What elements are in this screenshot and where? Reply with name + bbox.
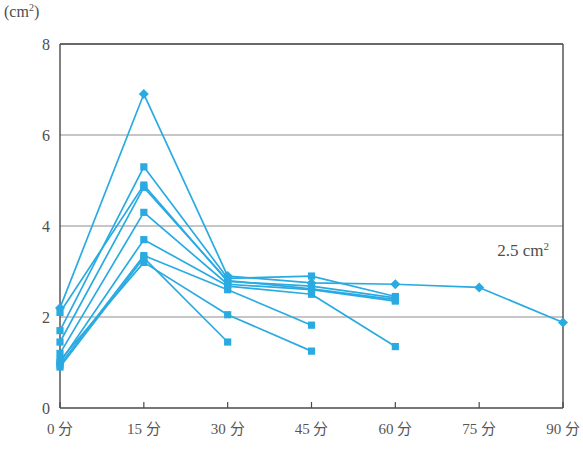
data-point-square [308, 322, 315, 329]
data-point-diamond [558, 317, 568, 327]
x-tick-marks-group [60, 402, 563, 408]
y-tick-label: 2 [42, 309, 50, 326]
data-point-square [140, 209, 147, 216]
value-annotation: 2.5 cm2 [497, 240, 549, 260]
data-point-square [308, 348, 315, 355]
data-point-square [392, 343, 399, 350]
series-line [60, 187, 395, 342]
x-tick-label: 90 分 [546, 421, 580, 437]
x-tick-label: 60 分 [378, 421, 412, 437]
data-series-group [55, 89, 568, 371]
data-point-square [392, 294, 399, 301]
data-point-square [224, 278, 231, 285]
chart-root: (cm2) 02468 0 分15 分30 分45 分60 分75 分90 分 … [0, 0, 583, 449]
annotations-group: 2.5 cm2 [497, 240, 549, 260]
data-point-square [224, 338, 231, 345]
data-point-square [56, 350, 63, 357]
data-point-diamond [474, 282, 484, 292]
data-point-square [308, 272, 315, 279]
data-point-square [56, 309, 63, 316]
x-tick-label: 30 分 [211, 421, 245, 437]
data-point-square [56, 338, 63, 345]
chart-svg: 02468 0 分15 分30 分45 分60 分75 分90 分 2.5 cm… [0, 0, 583, 449]
data-point-square [140, 254, 147, 261]
data-point-square [140, 236, 147, 243]
data-point-square [224, 286, 231, 293]
x-tick-label: 45 分 [295, 421, 329, 437]
x-tick-labels-group: 0 分15 分30 分45 分60 分75 分90 分 [47, 421, 580, 437]
y-tick-label: 8 [42, 36, 50, 53]
data-point-square [140, 163, 147, 170]
data-point-square [308, 291, 315, 298]
data-point-diamond [139, 89, 149, 99]
data-point-square [308, 282, 315, 289]
data-point-square [140, 181, 147, 188]
x-tick-label: 0 分 [47, 421, 73, 437]
y-tick-label: 4 [42, 218, 50, 235]
data-point-diamond [390, 279, 400, 289]
x-tick-label: 75 分 [462, 421, 496, 437]
data-point-square [224, 311, 231, 318]
y-tick-label: 0 [42, 400, 50, 417]
y-tick-label: 6 [42, 127, 50, 144]
data-point-square [56, 363, 63, 370]
x-tick-label: 15 分 [127, 421, 161, 437]
y-tick-labels-group: 02468 [42, 36, 50, 417]
data-point-square [56, 327, 63, 334]
